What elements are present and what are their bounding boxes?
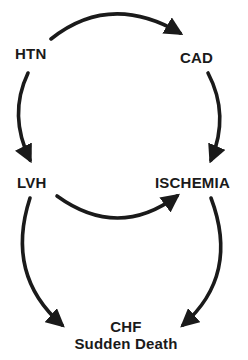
node-chf-label: CHF — [4, 319, 248, 334]
arrow-ischemia-to-chf — [183, 198, 221, 325]
arrow-cad-to-ischemia — [208, 73, 220, 160]
arrow-htn-to-cad — [51, 14, 180, 39]
arrow-lvh-to-ischemia — [57, 196, 177, 218]
node-htn: HTN — [15, 46, 46, 61]
node-lvh: LVH — [17, 175, 47, 190]
arrow-htn-to-lvh — [18, 73, 30, 160]
arrow-lvh-to-chf — [22, 198, 62, 325]
node-sudden-death-label: Sudden Death — [4, 336, 248, 351]
node-ischemia: ISCHEMIA — [155, 175, 230, 190]
diagram-canvas: HTN CAD LVH ISCHEMIA CHF Sudden Death — [0, 0, 248, 360]
node-cad: CAD — [180, 50, 213, 65]
node-chf-sudden-death: CHF Sudden Death — [0, 319, 248, 351]
